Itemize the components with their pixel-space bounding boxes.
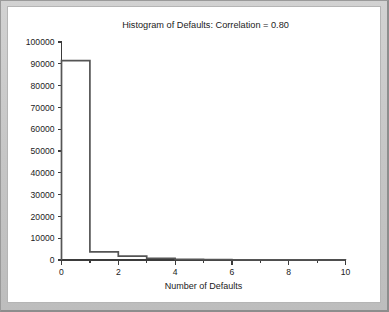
y-tick-label: 30000	[31, 190, 55, 200]
y-tick-label: 10000	[31, 233, 55, 243]
y-tick-label: 80000	[31, 81, 55, 91]
y-tick-label: 90000	[31, 59, 55, 69]
x-tick-label: 6	[230, 267, 235, 277]
y-tick-label: 20000	[31, 212, 55, 222]
y-tick-label: 40000	[31, 168, 55, 178]
x-tick-label: 10	[341, 267, 351, 277]
histogram-outline	[62, 61, 346, 260]
chart-title: Histogram of Defaults: Correlation = 0.8…	[122, 20, 289, 30]
y-tick-label: 70000	[31, 103, 55, 113]
y-tick-label: 100000	[26, 37, 55, 47]
x-axis-title: Number of Defaults	[165, 281, 243, 291]
x-tick-label: 2	[116, 267, 121, 277]
y-tick-label: 50000	[31, 146, 55, 156]
y-tick-label: 60000	[31, 124, 55, 134]
x-tick-label: 8	[286, 267, 291, 277]
screenshot-root: Histogram of Defaults: Correlation = 0.8…	[0, 0, 389, 312]
histogram-figure: Histogram of Defaults: Correlation = 0.8…	[8, 7, 382, 304]
x-tick-label: 0	[59, 267, 64, 277]
x-tick-label: 4	[173, 267, 178, 277]
chart-panel: Histogram of Defaults: Correlation = 0.8…	[7, 6, 381, 303]
y-tick-label: 0	[50, 255, 55, 265]
